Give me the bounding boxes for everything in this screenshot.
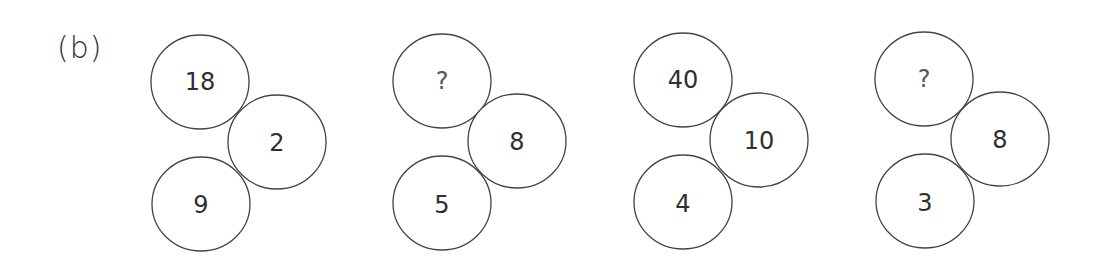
value-bottom: 5: [434, 191, 449, 219]
puzzle-2: ? 8 5: [393, 34, 566, 250]
puzzle-4: ? 8 3: [875, 32, 1049, 248]
value-right: 8: [992, 126, 1007, 154]
value-top: ?: [918, 65, 931, 93]
puzzle-3: 40 10 4: [634, 33, 808, 249]
value-right: 10: [744, 127, 775, 155]
puzzle-1: 18 2 9: [151, 35, 326, 251]
value-bottom: 9: [193, 191, 208, 219]
value-top: ?: [436, 67, 449, 95]
value-right: 2: [269, 129, 284, 157]
value-right: 8: [509, 128, 524, 156]
value-top: 18: [185, 68, 216, 96]
value-bottom: 3: [917, 189, 932, 217]
circle-puzzles: 18 2 9 ? 8 5 40 10 4 ? 8 3: [0, 0, 1103, 268]
value-top: 40: [668, 66, 699, 94]
value-bottom: 4: [675, 190, 690, 218]
